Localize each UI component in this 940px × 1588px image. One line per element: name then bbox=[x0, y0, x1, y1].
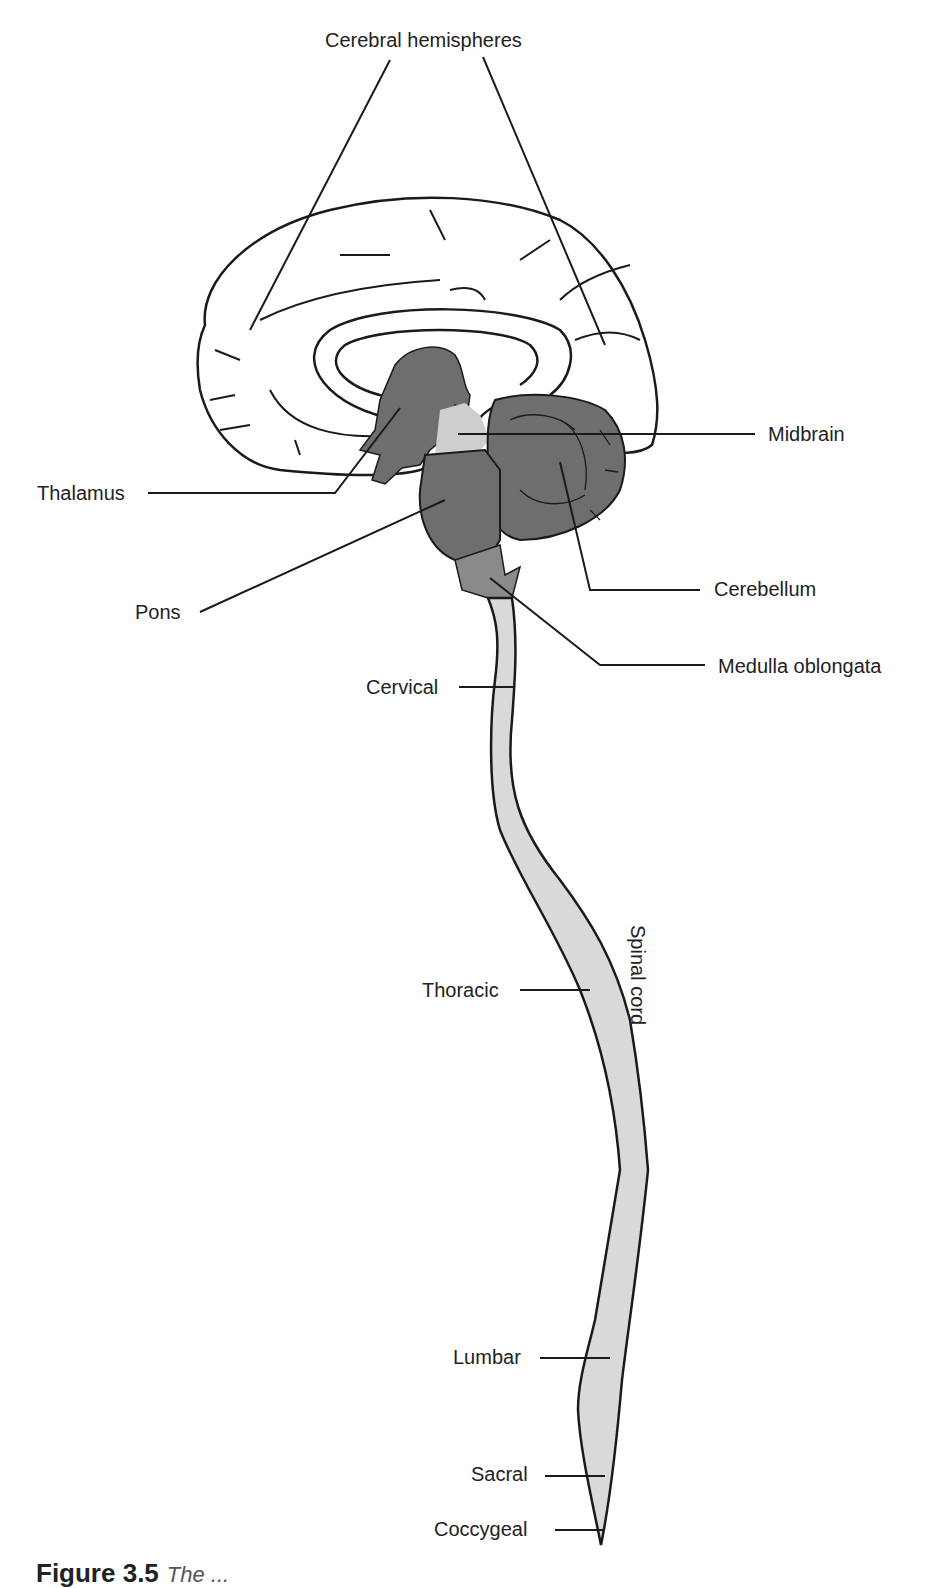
cerebellum-region bbox=[487, 395, 625, 540]
figure-caption-text: The ... bbox=[167, 1562, 229, 1587]
label-cerebellum: Cerebellum bbox=[714, 579, 816, 599]
label-medulla-oblongata: Medulla oblongata bbox=[718, 656, 881, 676]
label-cervical: Cervical bbox=[366, 677, 438, 697]
label-cerebral-hemispheres: Cerebral hemispheres bbox=[325, 30, 522, 50]
spinal-cord bbox=[488, 598, 648, 1545]
label-sacral: Sacral bbox=[471, 1464, 528, 1484]
label-spinal-cord: Spinal cord bbox=[628, 925, 648, 1025]
label-midbrain: Midbrain bbox=[768, 424, 845, 444]
label-pons: Pons bbox=[135, 602, 181, 622]
label-thalamus: Thalamus bbox=[37, 483, 125, 503]
figure-caption-label: Figure 3.5 bbox=[36, 1558, 159, 1588]
label-lumbar: Lumbar bbox=[453, 1347, 521, 1367]
label-coccygeal: Coccygeal bbox=[434, 1519, 527, 1539]
label-thoracic: Thoracic bbox=[422, 980, 499, 1000]
figure-caption: Figure 3.5The ... bbox=[36, 1560, 229, 1586]
